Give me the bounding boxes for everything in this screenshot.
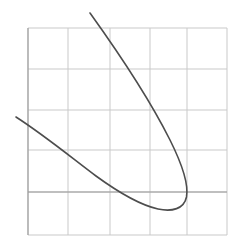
plot-canvas	[0, 0, 248, 251]
plot-background	[0, 0, 248, 251]
figure-container	[0, 0, 248, 251]
